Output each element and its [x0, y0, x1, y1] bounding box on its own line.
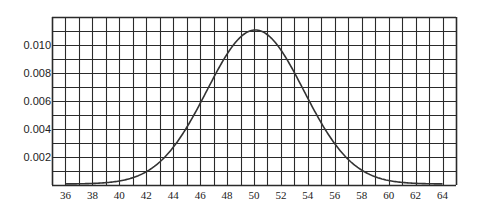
- x-tick-label: 44: [168, 189, 180, 201]
- x-tick-label: 64: [437, 189, 449, 201]
- y-tick-label: 0.002: [23, 151, 51, 163]
- x-tick-label: 36: [60, 189, 72, 201]
- x-tick-label: 62: [410, 189, 421, 201]
- y-axis-labels: 0.0020.0040.0060.0080.010: [23, 39, 51, 163]
- chart-grid: [52, 17, 457, 186]
- x-tick-label: 58: [356, 189, 368, 201]
- normal-distribution-chart: 0.0020.0040.0060.0080.010 36384042444648…: [0, 0, 480, 208]
- y-tick-label: 0.010: [23, 39, 51, 51]
- x-tick-label: 38: [87, 189, 99, 201]
- x-tick-label: 40: [114, 189, 126, 201]
- y-tick-label: 0.004: [23, 123, 51, 135]
- y-tick-label: 0.008: [23, 67, 51, 79]
- y-tick-label: 0.006: [23, 95, 51, 107]
- x-tick-label: 60: [383, 189, 395, 201]
- x-tick-label: 42: [141, 189, 152, 201]
- x-tick-label: 48: [222, 189, 234, 201]
- x-tick-label: 46: [195, 189, 207, 201]
- x-tick-label: 52: [275, 189, 286, 201]
- x-tick-label: 54: [302, 189, 314, 201]
- x-axis-labels: 363840424446485052545658606264: [60, 189, 449, 201]
- x-tick-label: 50: [249, 189, 261, 201]
- x-tick-label: 56: [329, 189, 341, 201]
